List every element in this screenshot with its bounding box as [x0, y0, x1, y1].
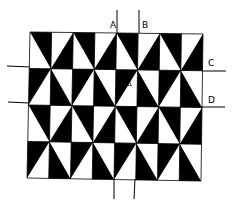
black-triangle: [159, 70, 181, 107]
black-triangle: [93, 106, 115, 143]
label-c: C: [208, 59, 214, 68]
black-triangle: [51, 33, 73, 70]
triangle-marker: Δ: [127, 81, 132, 88]
black-triangle: [115, 106, 137, 143]
black-triangle: [159, 107, 181, 144]
black-triangle: [49, 142, 71, 179]
black-triangle: [136, 107, 158, 144]
black-triangle: [158, 144, 180, 181]
black-triangle: [117, 33, 139, 70]
label-d: D: [208, 96, 215, 105]
cut-line-left-upper: [7, 66, 30, 67]
black-triangle: [30, 32, 52, 69]
black-triangle: [137, 70, 159, 107]
black-triangle: [160, 34, 182, 71]
cut-line-bottom-right: [134, 179, 135, 199]
black-triangle: [50, 69, 72, 106]
black-triangle: [136, 143, 158, 180]
black-triangle: [29, 69, 51, 106]
black-triangle: [94, 33, 116, 70]
black-triangle: [72, 106, 94, 143]
tessellation-diagram: [0, 0, 236, 211]
black-triangle: [72, 69, 94, 106]
black-triangle: [73, 33, 95, 70]
black-triangle: [179, 144, 201, 181]
black-triangle: [94, 69, 116, 106]
black-triangle: [92, 143, 114, 180]
black-triangle: [49, 106, 71, 143]
black-triangle: [114, 143, 136, 180]
cut-line-left-lower: [8, 102, 29, 103]
black-triangle: [138, 34, 160, 71]
black-triangle: [27, 142, 49, 179]
black-triangle: [180, 70, 202, 107]
label-a: A: [110, 21, 116, 30]
black-triangle: [180, 108, 202, 145]
black-triangle: [29, 105, 51, 142]
black-triangle: [71, 142, 93, 179]
label-b: B: [142, 21, 148, 30]
black-triangle: [181, 34, 203, 71]
